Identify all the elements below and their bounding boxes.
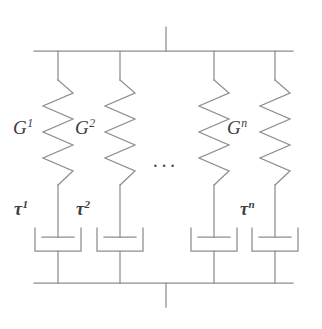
spring-label-gn-symbol: G — [227, 117, 241, 138]
spring-label-gn: Gn — [227, 118, 247, 137]
dashpot-label-tau2-symbol: τ — [76, 199, 84, 219]
branch-1-spring-zigzag — [43, 80, 73, 185]
branch-1-group — [35, 51, 81, 283]
spring-label-g1-index: 1 — [27, 117, 33, 130]
branch-3-group — [191, 51, 237, 283]
spring-label-g1: G1 — [13, 118, 33, 137]
rheology-diagram: G1 G2 Gn τ1 τ2 τn ··· — [0, 0, 322, 329]
dashpot-label-tau1-symbol: τ — [14, 199, 22, 219]
spring-label-gn-index: n — [241, 117, 247, 130]
spring-label-g1-symbol: G — [13, 117, 27, 138]
branch-4-spring-zigzag — [260, 80, 290, 185]
dashpot-label-tau1-index: 1 — [23, 198, 29, 210]
dashpot-label-tau2: τ2 — [76, 200, 90, 218]
dashpot-label-tau2-index: 2 — [85, 198, 91, 210]
dashpot-label-tau1: τ1 — [14, 200, 28, 218]
spring-label-g2: G2 — [75, 118, 95, 137]
dashpot-label-taun: τn — [240, 200, 255, 218]
continuation-ellipsis: ··· — [152, 156, 178, 176]
dashpot-label-taun-index: n — [249, 198, 255, 210]
spring-label-g2-index: 2 — [89, 117, 95, 130]
branch-2-spring-zigzag — [105, 80, 135, 185]
branch-3-spring-zigzag — [199, 80, 229, 185]
branch-4-group — [252, 51, 298, 283]
branch-2-group — [97, 51, 143, 283]
spring-label-g2-symbol: G — [75, 117, 89, 138]
dashpot-label-taun-symbol: τ — [240, 199, 248, 219]
